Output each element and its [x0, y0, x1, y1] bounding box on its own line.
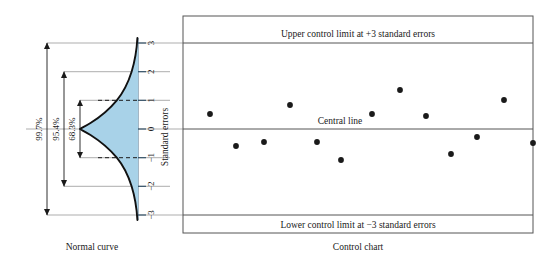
data-point — [474, 134, 480, 140]
control-chart-caption: Control chart — [333, 242, 384, 252]
bracket-label-683: 68.3% — [67, 117, 77, 141]
figure-container: 3 2 1 0 −1 −2 −3 Standard errors 99.7% 9… — [0, 0, 551, 266]
figure-svg: 3 2 1 0 −1 −2 −3 Standard errors 99.7% 9… — [0, 0, 551, 266]
bracket-label-997: 99.7% — [34, 117, 44, 141]
data-point — [448, 151, 454, 157]
data-point — [501, 97, 507, 103]
data-point — [261, 139, 267, 145]
lower-control-limit-label: Lower control limit at −3 standard error… — [280, 220, 436, 230]
data-point — [314, 139, 320, 145]
data-point — [423, 113, 429, 119]
figure-background — [0, 0, 551, 266]
data-point — [233, 143, 239, 149]
tick-label-minus3: −3 — [146, 210, 156, 220]
upper-control-limit-label: Upper control limit at +3 standard error… — [281, 29, 435, 39]
data-point — [530, 140, 536, 146]
data-point — [369, 111, 375, 117]
tick-label-plus2: 2 — [146, 69, 156, 74]
tick-label-plus3: 3 — [146, 40, 156, 45]
data-point — [207, 111, 213, 117]
bracket-label-954: 95.4% — [51, 117, 61, 141]
data-point — [338, 157, 344, 163]
data-point — [287, 102, 293, 108]
central-line-label: Central line — [318, 116, 363, 126]
normal-curve-axis-title: Standard errors — [160, 108, 170, 167]
tick-label-zero: 0 — [146, 126, 156, 131]
tick-label-minus1: −1 — [146, 153, 156, 163]
data-point — [397, 87, 403, 93]
normal-curve-caption: Normal curve — [66, 242, 119, 252]
tick-label-plus1: 1 — [146, 98, 156, 103]
tick-label-minus2: −2 — [146, 182, 156, 192]
